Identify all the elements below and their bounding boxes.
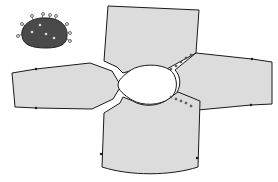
pattern-diagram [0,0,278,182]
fabric-swatch [17,13,72,49]
left-sleeve-piece [12,63,121,109]
